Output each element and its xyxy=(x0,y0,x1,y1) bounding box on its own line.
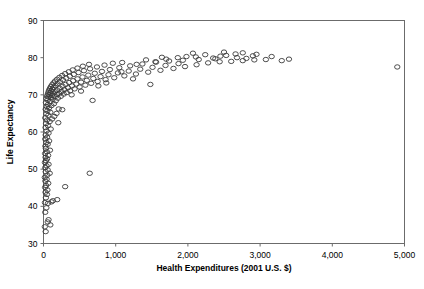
x-tick-label: 5,000 xyxy=(394,250,416,260)
x-tick-label: 4,000 xyxy=(322,250,344,260)
data-point xyxy=(76,70,81,74)
data-point xyxy=(150,65,155,69)
data-point xyxy=(80,75,85,79)
x-tick-label: 3,000 xyxy=(249,250,271,260)
y-tick-label: 80 xyxy=(28,53,38,63)
data-point xyxy=(99,69,104,73)
data-point xyxy=(395,65,400,69)
plot-canvas: 30405060708090 01,0002,0003,0004,0005,00… xyxy=(0,0,424,289)
data-point xyxy=(163,63,168,67)
data-point xyxy=(91,76,96,80)
data-point xyxy=(140,62,145,66)
data-point xyxy=(90,98,95,102)
x-tick-label: 0 xyxy=(41,250,46,260)
y-tick-label: 30 xyxy=(28,239,38,249)
data-point xyxy=(133,72,138,76)
data-point-group xyxy=(42,50,400,234)
data-point xyxy=(126,69,131,73)
data-point xyxy=(205,61,210,65)
y-axis-tick-labels: 30405060708090 xyxy=(28,16,38,249)
data-point xyxy=(86,73,91,77)
data-point xyxy=(171,66,176,70)
data-point xyxy=(175,55,180,59)
data-point xyxy=(145,70,150,74)
data-point xyxy=(110,61,115,65)
data-point xyxy=(119,70,124,74)
data-point xyxy=(80,64,85,68)
data-point xyxy=(182,64,187,68)
data-point xyxy=(112,76,117,80)
data-point xyxy=(94,65,99,69)
data-point xyxy=(119,60,124,64)
y-tick-label: 40 xyxy=(28,201,38,211)
data-point xyxy=(203,52,208,56)
data-point xyxy=(148,82,153,86)
data-point xyxy=(286,57,291,61)
data-point xyxy=(96,84,101,88)
data-point xyxy=(138,67,143,71)
data-point xyxy=(143,58,148,62)
data-point xyxy=(78,89,83,93)
data-point xyxy=(158,68,163,72)
data-point xyxy=(279,58,284,62)
x-tick-label: 2,000 xyxy=(177,250,199,260)
data-point xyxy=(69,93,74,97)
y-tick-label: 70 xyxy=(28,90,38,100)
data-point xyxy=(75,66,80,70)
data-point xyxy=(218,54,223,58)
data-point xyxy=(127,64,132,68)
y-axis-title: Life Expectancy xyxy=(5,99,15,164)
data-point xyxy=(98,74,103,78)
data-point xyxy=(134,62,139,66)
data-point xyxy=(240,51,245,55)
x-axis-title: Health Expenditures (2001 U.S. $) xyxy=(156,263,291,273)
data-point xyxy=(44,206,49,210)
data-point xyxy=(107,67,112,71)
data-point xyxy=(60,108,65,112)
data-point xyxy=(42,225,47,229)
x-axis-tick-labels: 01,0002,0003,0004,0005,000 xyxy=(41,250,415,260)
data-point xyxy=(194,63,199,67)
x-tick-label: 1,000 xyxy=(105,250,127,260)
data-point xyxy=(106,73,111,77)
data-point xyxy=(130,77,135,81)
data-point xyxy=(56,121,61,125)
data-point xyxy=(92,71,97,75)
data-point xyxy=(115,71,120,75)
data-point xyxy=(81,68,86,72)
data-point xyxy=(87,67,92,71)
data-point xyxy=(62,184,67,188)
data-point xyxy=(86,62,91,66)
data-point xyxy=(102,63,107,67)
scatter-plot-figure: 30405060708090 01,0002,0003,0004,0005,00… xyxy=(0,0,424,289)
y-tick-label: 60 xyxy=(28,127,38,137)
data-point xyxy=(190,51,195,55)
y-tick-label: 90 xyxy=(28,16,38,26)
data-point xyxy=(184,54,189,58)
data-point xyxy=(269,54,274,58)
data-point xyxy=(229,59,234,63)
data-point xyxy=(87,171,92,175)
data-point xyxy=(263,57,268,61)
y-tick-label: 50 xyxy=(28,164,38,174)
